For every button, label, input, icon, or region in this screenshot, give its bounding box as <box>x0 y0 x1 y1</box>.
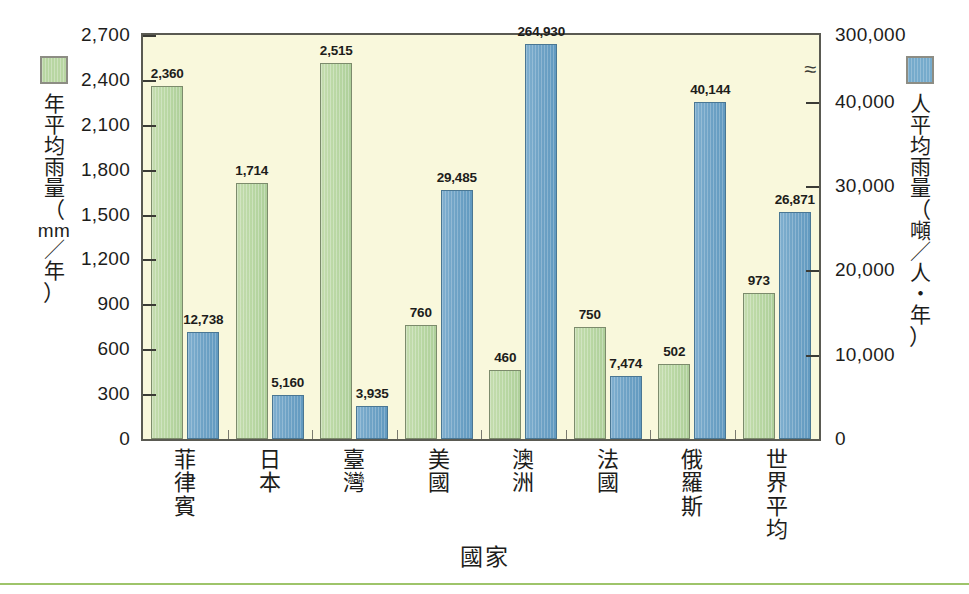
x-axis-category-0-char-0: 菲 <box>174 448 196 471</box>
x-axis-category-1: 日本 <box>259 448 281 495</box>
chart-canvas: 年 平 均 雨 量 （ mm ／ 年 ） 人 平 均 雨 量 （ 噸 ／ 人 ・… <box>0 0 969 594</box>
x-axis-tick-1 <box>312 430 313 439</box>
bar-value-label-blue-6: 40,144 <box>690 82 730 97</box>
x-axis-category-0-char-1: 律 <box>174 471 196 494</box>
right-axis-tick-1 <box>806 355 819 357</box>
right-axis-label-1: 10,000 <box>835 344 895 366</box>
bottom-divider-rule <box>0 583 969 585</box>
bar-value-label-blue-4: 264,930 <box>518 24 565 39</box>
bar-rainfall-depth-3 <box>405 325 437 439</box>
legend-right-swatch <box>906 56 934 84</box>
right-axis-label-2: 20,000 <box>835 259 895 281</box>
x-axis-category-5: 法國 <box>597 448 619 495</box>
legend-right-char-1: 平 <box>872 115 968 136</box>
bar-value-label-green-4: 460 <box>494 350 516 365</box>
legend-right-char-10: 年 <box>872 305 968 326</box>
left-axis-tick-6 <box>143 170 156 172</box>
bar-value-label-blue-5: 7,474 <box>609 356 642 371</box>
bar-rainfall-per-capita-3 <box>441 190 473 439</box>
x-axis-tick-3 <box>481 430 482 439</box>
x-axis-category-7-char-1: 界 <box>766 471 788 494</box>
left-axis-label-5: 1,500 <box>20 204 130 226</box>
left-axis-label-3: 900 <box>20 293 130 315</box>
x-axis-tick-6 <box>735 430 736 439</box>
right-axis-label-3: 30,000 <box>835 175 895 197</box>
right-axis-label-4: 40,000 <box>835 91 895 113</box>
legend-left-char-0: 年 <box>6 94 102 115</box>
left-axis-label-2: 600 <box>20 338 130 360</box>
left-axis-tick-9 <box>143 35 156 37</box>
x-axis-category-7: 世界平均 <box>766 448 788 541</box>
x-axis-category-5-char-0: 法 <box>597 448 619 471</box>
left-axis-label-8: 2,400 <box>20 69 130 91</box>
x-axis-category-6-char-0: 俄 <box>681 448 703 471</box>
right-axis-label-5: 300,000 <box>835 24 906 46</box>
x-axis-category-6-char-1: 羅 <box>681 471 703 494</box>
left-axis-tick-3 <box>143 304 156 306</box>
x-axis-title: 國家 <box>0 538 969 572</box>
legend-right-char-9: ・ <box>872 284 968 305</box>
x-axis-category-3-char-0: 美 <box>428 448 450 471</box>
x-axis-category-2-char-0: 臺 <box>343 448 365 471</box>
right-axis-label-0: 0 <box>835 428 846 450</box>
x-axis-category-7-char-0: 世 <box>766 448 788 471</box>
left-axis-tick-8 <box>143 80 156 82</box>
left-axis-label-4: 1,200 <box>20 248 130 270</box>
bar-rainfall-per-capita-6 <box>694 102 726 439</box>
x-axis-category-0: 菲律賓 <box>174 448 196 518</box>
left-axis-label-7: 2,100 <box>20 114 130 136</box>
x-axis-category-2-char-1: 灣 <box>343 471 365 494</box>
legend-right-char-6: 噸 <box>872 221 968 242</box>
left-axis-label-0: 0 <box>20 428 130 450</box>
legend-right-char-5: （ <box>872 199 968 221</box>
bar-rainfall-per-capita-7 <box>779 212 811 439</box>
x-axis-category-4-char-1: 洲 <box>512 471 534 494</box>
x-axis-tick-2 <box>397 430 398 439</box>
left-axis-label-9: 2,700 <box>20 24 130 46</box>
bar-value-label-blue-1: 5,160 <box>271 375 304 390</box>
x-axis-category-4-char-0: 澳 <box>512 448 534 471</box>
bar-rainfall-depth-5 <box>574 327 606 439</box>
legend-right-label: 人 平 均 雨 量 （ 噸 ／ 人 ・ 年 ） <box>872 94 968 348</box>
x-axis-category-5-char-1: 國 <box>597 471 619 494</box>
bar-rainfall-depth-7 <box>743 293 775 439</box>
bar-rainfall-depth-6 <box>658 364 690 439</box>
bar-value-label-green-5: 750 <box>579 307 601 322</box>
bar-rainfall-depth-0 <box>151 86 183 439</box>
bar-value-label-green-7: 973 <box>748 273 770 288</box>
x-axis-category-6-char-2: 斯 <box>681 495 703 518</box>
left-axis-tick-1 <box>143 394 156 396</box>
legend-left-char-4: 量 <box>6 178 102 199</box>
x-axis-category-0-char-2: 賓 <box>174 495 196 518</box>
right-axis-tick-4 <box>806 102 819 104</box>
bar-value-label-green-2: 2,515 <box>320 43 353 58</box>
x-axis-category-2: 臺灣 <box>343 448 365 495</box>
bar-rainfall-per-capita-2 <box>356 406 388 439</box>
x-axis-category-1-char-0: 日 <box>259 448 281 471</box>
bar-value-label-green-0: 2,360 <box>151 66 184 81</box>
plot-inner: 2,36012,7381,7145,1602,5153,93576029,485… <box>143 35 819 439</box>
x-axis-category-4: 澳洲 <box>512 448 534 495</box>
left-axis-tick-2 <box>143 349 156 351</box>
bar-value-label-green-3: 760 <box>410 305 432 320</box>
right-axis-break-icon: ≈ <box>804 59 816 79</box>
x-axis-category-6: 俄羅斯 <box>681 448 703 518</box>
x-axis-category-7-char-2: 平 <box>766 495 788 518</box>
bar-rainfall-per-capita-0 <box>187 332 219 439</box>
x-axis-tick-4 <box>566 430 567 439</box>
legend-right-char-2: 均 <box>872 136 968 157</box>
bar-rainfall-per-capita-5 <box>610 376 642 439</box>
bar-value-label-blue-0: 12,738 <box>183 312 223 327</box>
bar-value-label-blue-7: 26,871 <box>775 192 815 207</box>
bar-rainfall-depth-4 <box>489 370 521 439</box>
legend-left-char-2: 均 <box>6 136 102 157</box>
left-axis-label-6: 1,800 <box>20 159 130 181</box>
x-axis-category-3: 美國 <box>428 448 450 495</box>
plot-area: 2,36012,7381,7145,1602,5153,93576029,485… <box>141 33 821 441</box>
x-axis-tick-5 <box>650 430 651 439</box>
x-axis-category-1-char-1: 本 <box>259 471 281 494</box>
bar-value-label-blue-2: 3,935 <box>356 386 389 401</box>
bar-value-label-green-6: 502 <box>663 344 685 359</box>
x-axis-tick-0 <box>228 430 229 439</box>
right-axis-tick-3 <box>806 186 819 188</box>
